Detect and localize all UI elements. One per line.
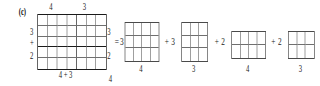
grid-cell: [125, 36, 133, 49]
grid-cell: [150, 23, 158, 36]
term-2-grid: [231, 31, 266, 59]
grid-cell: [240, 45, 248, 58]
main-right-label-bottom: 2: [107, 51, 110, 61]
grid-cell: [182, 48, 190, 61]
term-0-bottom-label: 4: [139, 64, 142, 74]
grid-cell: [297, 32, 305, 45]
grid-cell: [125, 48, 133, 61]
grid-cell: [38, 26, 48, 37]
grid-cell: [38, 47, 48, 58]
term-2-bottom-label: 4: [246, 64, 249, 74]
main-left-label-bottom: 2: [30, 51, 33, 61]
term-1-bottom-label: 3: [192, 64, 195, 74]
grid-cell: [77, 47, 87, 58]
grid-cell: [67, 58, 77, 69]
grid-cell: [96, 47, 106, 58]
grid-cell: [190, 23, 198, 36]
grid-cell: [134, 48, 142, 61]
grid-cell: [87, 58, 97, 69]
grid-cell: [67, 26, 77, 37]
term-3-coefficient: 2: [278, 36, 282, 47]
main-right-label-top: 3: [107, 27, 110, 37]
grid-cell: [125, 23, 133, 36]
equals-sign: =: [115, 36, 119, 47]
distributive-property-figure: (c) 4 3 3 + 2 3 2 4 + 3 4 = 3 4 + 3 3 + …: [0, 0, 320, 86]
grid-cell: [190, 48, 198, 61]
grid-cell: [87, 26, 97, 37]
grid-cell: [87, 15, 97, 26]
grid-cell: [134, 36, 142, 49]
term-2-coefficient: 2: [221, 36, 225, 47]
grid-cell: [57, 26, 67, 37]
grid-cell: [182, 23, 190, 36]
grid-cell: [232, 45, 240, 58]
grid-cell: [67, 47, 77, 58]
grid-cell: [190, 36, 198, 49]
term-1-grid: [181, 22, 208, 62]
grid-cell: [38, 58, 48, 69]
main-left-label-operator: +: [30, 38, 34, 48]
grid-cell: [38, 15, 48, 26]
grid-cell: [289, 32, 297, 45]
grid-cell: [96, 37, 106, 48]
grid-cell: [48, 37, 58, 48]
term-1-coefficient: 3: [171, 36, 175, 47]
grid-cell: [199, 36, 207, 49]
grid-cell: [142, 48, 150, 61]
grid-cell: [150, 48, 158, 61]
part-label: (c): [19, 6, 26, 17]
main-stray-label: 4: [109, 74, 112, 84]
grid-cell: [48, 47, 58, 58]
grid-cell: [77, 58, 87, 69]
grid-cell: [150, 36, 158, 49]
grid-cell: [67, 15, 77, 26]
grid-cell: [240, 32, 248, 45]
grid-cell: [77, 37, 87, 48]
grid-cell: [87, 47, 97, 58]
grid-cell: [38, 37, 48, 48]
grid-cell: [142, 23, 150, 36]
grid-cell: [142, 36, 150, 49]
term-0-coefficient: 3: [120, 36, 124, 47]
grid-cell: [257, 32, 265, 45]
grid-cell: [289, 45, 297, 58]
grid-cell: [57, 58, 67, 69]
grid-cell: [232, 32, 240, 45]
grid-cell: [48, 15, 58, 26]
grid-cell: [96, 26, 106, 37]
grid-cell: [306, 32, 314, 45]
term-0-grid: [125, 22, 160, 62]
grid-cell: [48, 58, 58, 69]
main-bottom-label: 4 + 3: [59, 70, 73, 80]
term-3-bottom-label: 3: [299, 64, 302, 74]
main-left-label-top: 3: [30, 27, 33, 37]
grid-cell: [182, 36, 190, 49]
main-top-label-right: 3: [83, 2, 86, 12]
grid-cell: [77, 26, 87, 37]
grid-cell: [199, 23, 207, 36]
grid-cell: [67, 37, 77, 48]
main-top-label-left: 4: [49, 2, 52, 12]
grid-cell: [77, 15, 87, 26]
grid-cell: [57, 37, 67, 48]
term-3-operator: +: [271, 36, 275, 47]
grid-cell: [249, 45, 257, 58]
grid-cell: [199, 48, 207, 61]
grid-cell: [134, 23, 142, 36]
grid-cell: [48, 26, 58, 37]
main-area-grid: [37, 14, 106, 70]
term-2-operator: +: [215, 36, 219, 47]
grid-cell: [249, 32, 257, 45]
grid-cell: [57, 47, 67, 58]
grid-cell: [96, 58, 106, 69]
grid-cell: [87, 37, 97, 48]
grid-cell: [306, 45, 314, 58]
term-1-operator: +: [165, 36, 169, 47]
grid-cell: [57, 15, 67, 26]
term-3-grid: [288, 31, 315, 59]
grid-cell: [297, 45, 305, 58]
grid-cell: [96, 15, 106, 26]
grid-cell: [257, 45, 265, 58]
